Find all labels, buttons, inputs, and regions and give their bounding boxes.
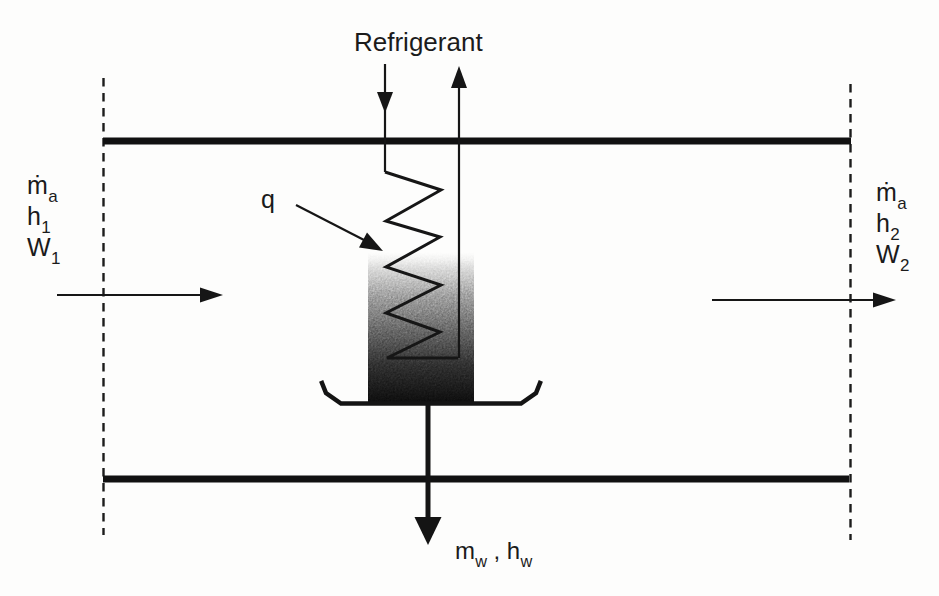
condensate-enthalpy-subscript: w — [520, 552, 532, 570]
refrigerant-inlet-arrow — [377, 64, 393, 172]
air-outlet-mass-flow-label: ṁa — [876, 177, 909, 208]
condensate-mass-subscript: w — [475, 552, 487, 570]
heat-transfer-arrow — [296, 205, 383, 251]
air-outlet-arrow — [712, 293, 896, 308]
enthalpy-subscript: 2 — [890, 225, 899, 244]
heat-transfer-label: q — [261, 185, 275, 214]
air-inlet-arrow — [57, 288, 223, 303]
air-inlet-mass-flow-label: ṁa — [27, 170, 60, 201]
diagram-canvas — [0, 0, 939, 596]
air-inlet-properties: ṁa h1 W1 — [27, 170, 60, 263]
humidity-symbol: W — [27, 233, 51, 261]
enthalpy-symbol: h — [27, 202, 41, 230]
enthalpy-symbol: h — [876, 209, 890, 237]
condensate-separator: , — [487, 537, 507, 564]
condensate-drain-arrow — [415, 404, 442, 545]
mass-flow-symbol: ṁ — [876, 178, 897, 206]
mass-flow-symbol: ṁ — [27, 171, 48, 199]
air-outlet-properties: ṁa h2 W2 — [876, 177, 909, 270]
humidity-subscript: 1 — [51, 249, 60, 268]
condensate-label: mw , hw — [455, 537, 532, 565]
humidity-subscript: 2 — [900, 256, 909, 275]
condensate-enthalpy-symbol: h — [507, 537, 520, 564]
condensate-mass-symbol: m — [455, 537, 475, 564]
refrigerant-label: Refrigerant — [354, 27, 483, 58]
humidity-symbol: W — [876, 240, 900, 268]
cooling-coil-diagram: Refrigerant q ṁa h1 W1 ṁa h2 W2 mw , hw — [0, 0, 939, 596]
mass-flow-subscript: a — [48, 187, 57, 206]
mass-flow-subscript: a — [897, 194, 906, 213]
enthalpy-subscript: 1 — [41, 218, 50, 237]
